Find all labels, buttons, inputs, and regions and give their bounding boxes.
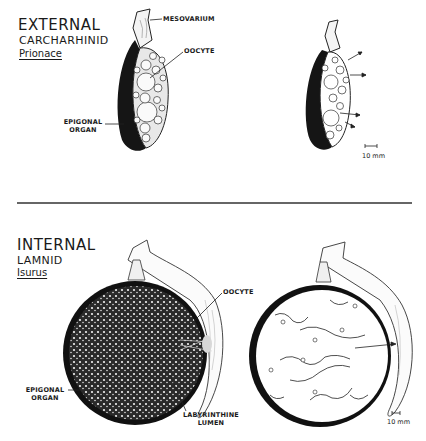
ovary-internal-left [63,240,223,425]
bottom-panel-group: LAMNID [17,254,63,267]
scale-bar-top [365,144,377,148]
scale-label-top: 10 mm [362,152,385,160]
label-mesovarium: MESOVARIUM [163,15,215,23]
bottom-panel-title: INTERNAL [17,237,96,253]
ovary-external-left [105,9,183,151]
ovary-external-right [306,20,377,150]
bottom-panel-genus: Isurus [17,267,47,279]
label-oocyte-bottom: OOCYTE [223,288,254,296]
label-labyrinthine-lumen: LABYRINTHINE LUMEN [183,411,239,427]
label-epigonal-organ-top: EPIGONAL ORGAN [60,118,106,134]
top-panel-title: EXTERNAL [18,17,100,33]
ovary-internal-right [249,242,412,427]
illustration-canvas [0,0,426,441]
label-epigonal-organ-bottom: EPIGONAL ORGAN [22,386,68,402]
top-panel-group: CARCHARHINID [19,34,109,47]
scale-label-bottom: 10 mm [387,418,410,426]
label-oocyte-top: OOCYTE [184,47,215,55]
top-panel-genus: Prionace [19,48,62,60]
